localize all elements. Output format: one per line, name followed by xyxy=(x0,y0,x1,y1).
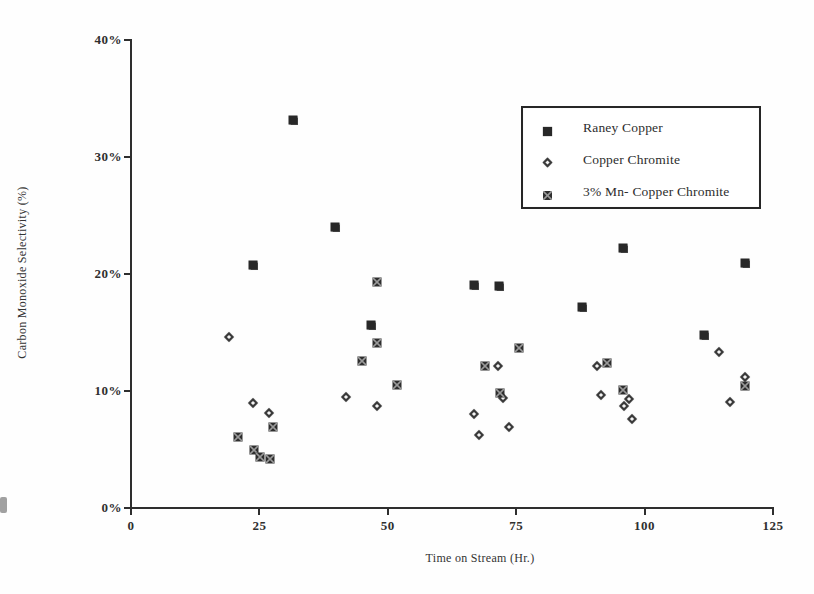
data-point xyxy=(514,343,523,352)
legend-label: Copper Chromite xyxy=(583,152,680,168)
open-diamond-icon xyxy=(493,361,503,371)
filled-square-icon xyxy=(330,223,339,232)
open-diamond-icon xyxy=(624,394,634,404)
open-diamond-icon xyxy=(469,409,479,419)
y-tick-label: 10% xyxy=(82,383,122,399)
scanned-chart-page: 0%10%20%30%40%0255075100125 Time on Stre… xyxy=(0,0,814,594)
x-square-marker-icon xyxy=(543,191,552,200)
open-diamond-icon xyxy=(248,398,258,408)
x-tick-label: 0 xyxy=(111,518,151,534)
filled-square-icon xyxy=(618,244,627,253)
x-tick-label: 75 xyxy=(496,518,536,534)
filled-square-icon xyxy=(248,260,257,269)
data-point xyxy=(700,330,709,339)
x-tick-mark xyxy=(515,508,517,515)
x-square-icon xyxy=(268,423,277,432)
data-point xyxy=(248,260,257,269)
x-axis-line xyxy=(130,507,774,509)
data-point xyxy=(598,391,605,398)
open-diamond-icon xyxy=(714,347,724,357)
data-point xyxy=(372,339,381,348)
filled-square-icon xyxy=(700,330,709,339)
x-square-icon xyxy=(618,385,627,394)
data-point xyxy=(357,356,366,365)
open-diamond-icon xyxy=(597,390,607,400)
data-point xyxy=(266,410,273,417)
x-square-icon xyxy=(392,381,401,390)
filled-square-icon xyxy=(740,259,749,268)
data-point xyxy=(476,432,483,439)
open-diamond-icon xyxy=(341,392,351,402)
legend-entry-mn-copper-chromite: 3% Mn- Copper Chromite xyxy=(523,184,759,206)
open-diamond-icon xyxy=(372,401,382,411)
x-tick-mark xyxy=(258,508,260,515)
x-square-icon xyxy=(256,452,265,461)
data-point xyxy=(470,280,479,289)
x-square-icon xyxy=(602,358,611,367)
data-point xyxy=(373,403,380,410)
data-point xyxy=(740,259,749,268)
scatter-plot: 0%10%20%30%40%0255075100125 Time on Stre… xyxy=(0,0,814,594)
x-tick-label: 100 xyxy=(625,518,665,534)
x-square-icon xyxy=(357,356,366,365)
open-diamond-icon xyxy=(474,431,484,441)
x-tick-mark xyxy=(772,508,774,515)
y-tick-mark xyxy=(124,39,131,41)
data-point xyxy=(593,363,600,370)
data-point xyxy=(471,411,478,418)
data-point xyxy=(250,399,257,406)
x-tick-label: 125 xyxy=(753,518,793,534)
filled-square-icon xyxy=(470,280,479,289)
legend-box: Raney Copper Copper Chromite 3% Mn- Copp… xyxy=(521,106,761,209)
x-square-icon xyxy=(372,339,381,348)
y-tick-mark xyxy=(124,273,131,275)
data-point xyxy=(266,454,275,463)
open-diamond-marker-icon xyxy=(544,159,551,166)
filled-square-icon xyxy=(578,302,587,311)
legend-entry-raney-copper: Raney Copper xyxy=(523,120,759,142)
data-point xyxy=(480,362,489,371)
y-tick-label: 0% xyxy=(82,500,122,516)
filled-square-icon xyxy=(495,281,504,290)
data-point xyxy=(506,424,513,431)
data-point xyxy=(366,321,375,330)
data-point xyxy=(716,349,723,356)
data-point xyxy=(602,358,611,367)
x-tick-mark xyxy=(644,508,646,515)
open-diamond-icon xyxy=(264,408,274,418)
data-point xyxy=(256,452,265,461)
legend-entry-copper-chromite: Copper Chromite xyxy=(523,152,759,174)
y-tick-label: 30% xyxy=(82,149,122,165)
data-point xyxy=(289,115,298,124)
data-point xyxy=(618,244,627,253)
x-square-icon xyxy=(480,362,489,371)
x-square-icon xyxy=(514,343,523,352)
data-point xyxy=(268,423,277,432)
y-tick-mark xyxy=(124,390,131,392)
data-point xyxy=(741,382,750,391)
open-diamond-icon xyxy=(725,397,735,407)
data-point xyxy=(621,403,628,410)
legend-label: 3% Mn- Copper Chromite xyxy=(583,184,730,200)
filled-square-icon xyxy=(366,321,375,330)
data-point xyxy=(226,334,233,341)
x-tick-label: 50 xyxy=(368,518,408,534)
data-point xyxy=(618,385,627,394)
y-tick-label: 20% xyxy=(82,266,122,282)
x-tick-label: 25 xyxy=(239,518,279,534)
data-point xyxy=(330,223,339,232)
data-point xyxy=(726,398,733,405)
data-point xyxy=(495,281,504,290)
y-axis-title: Carbon Monoxide Selectivity (%) xyxy=(15,158,30,388)
data-point xyxy=(742,373,749,380)
open-diamond-icon xyxy=(627,414,637,424)
open-diamond-icon xyxy=(740,372,750,382)
x-square-icon xyxy=(495,389,504,398)
x-square-icon xyxy=(372,278,381,287)
y-tick-label: 40% xyxy=(82,32,122,48)
x-tick-mark xyxy=(387,508,389,515)
data-point xyxy=(495,389,504,398)
data-point xyxy=(578,302,587,311)
x-tick-mark xyxy=(130,508,132,515)
data-point xyxy=(372,278,381,287)
